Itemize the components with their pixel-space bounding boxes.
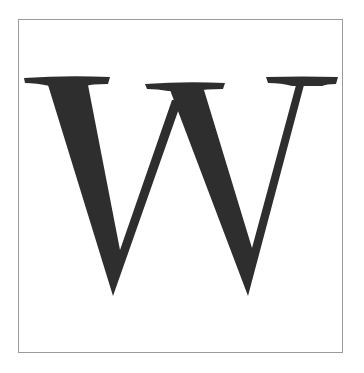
left-v-strokes: [48, 85, 182, 296]
right-serif: [266, 77, 338, 87]
right-v-strokes: [170, 85, 304, 296]
letter-w-glyph: [0, 0, 364, 373]
middle-serif: [145, 82, 225, 91]
left-serif: [24, 76, 110, 86]
